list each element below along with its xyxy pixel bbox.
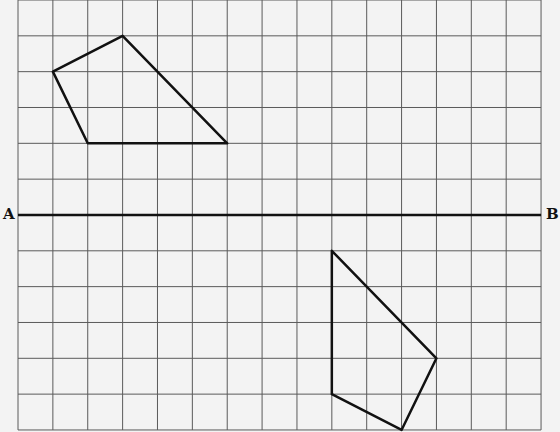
point-label-b: B [546, 207, 559, 222]
grid-diagram [0, 0, 560, 432]
shapes [53, 36, 437, 430]
lower-quadrilateral [332, 251, 437, 430]
upper-quadrilateral [53, 36, 227, 143]
point-label-a: A [3, 207, 15, 222]
